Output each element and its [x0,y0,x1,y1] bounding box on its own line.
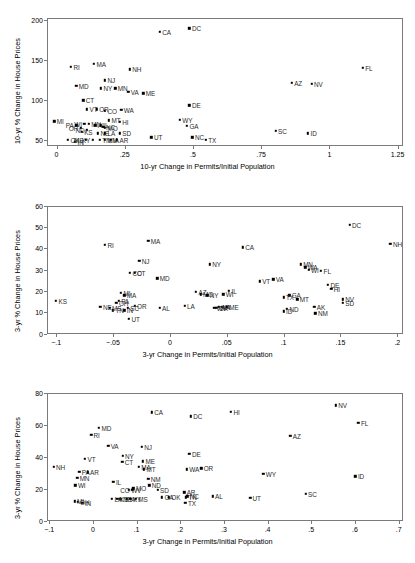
data-point-label: ID [286,308,292,315]
data-point-label: LA [115,495,123,502]
data-point [91,138,93,140]
x-tick-mark [93,521,94,524]
data-point [190,415,192,417]
data-point-label: AZ [293,432,301,439]
x-tick-mark [125,146,126,149]
data-point [184,502,186,504]
data-point [208,263,210,265]
x-tick-label: −.1 [44,526,54,533]
data-point-label: MT [146,466,155,473]
x-tick-label: .1 [134,526,140,533]
data-point [133,272,135,274]
data-point-label: ME [146,90,155,97]
data-point-label: UT [131,315,139,322]
x-tick-mark [399,521,400,524]
x-tick-mark [227,334,228,337]
data-point [112,481,114,483]
x-tick-mark [193,146,194,149]
data-point-label: DE [192,102,201,109]
data-point-label: MA [96,60,105,67]
data-point [119,121,121,123]
panel-b-y-axis-label: 3-yr % Change in House Prices [13,230,22,332]
data-point [272,278,274,280]
data-point-label: CA [154,409,163,416]
data-point [121,454,123,456]
data-point-label: CA [245,244,254,251]
data-point [107,445,109,447]
data-point-label: VA [276,276,284,283]
data-point [128,317,130,319]
data-point-label: MI [77,498,84,505]
data-point-label: MS [138,495,147,502]
data-point-label: NJ [144,443,152,450]
data-point [249,497,251,499]
y-tick-mark [44,393,47,394]
data-point-label: PA [66,122,74,129]
data-point [98,138,100,140]
data-point-label: MN [118,85,128,92]
data-point-label: VT [262,278,270,285]
y-tick-mark [44,270,47,271]
data-point-label: IN [85,499,91,506]
data-point [151,411,153,413]
x-tick-label: .05 [222,339,232,346]
y-tick-label: 40 [25,245,43,252]
y-tick-label: 50 [25,223,43,230]
panel-c-y-axis-label: 3-yr % Change in House Prices [13,417,22,519]
data-point [78,470,80,472]
data-point [97,132,99,134]
data-point [304,266,306,268]
data-point-label: WA [124,107,134,114]
data-point [179,118,181,120]
x-tick-mark [311,521,312,524]
data-point [183,305,185,307]
y-tick-label: 60 [25,422,43,429]
data-point-label: CO [120,486,129,493]
data-point [296,298,298,300]
panel-a-y-axis-label: 10-yr % Change in House Prices [13,38,22,144]
data-point [131,489,133,491]
x-tick-mark [397,334,398,337]
data-point-label: KS [59,297,67,304]
y-tick-label: 10 [25,309,43,316]
data-point [86,471,88,473]
panel-c: Panel C: 2002–2005 3-yr % Change in Hous… [0,375,415,563]
data-point [168,496,170,498]
data-point-label: LA [187,302,195,309]
data-point [142,460,144,462]
y-tick-label: 150 [25,56,43,63]
data-point [104,110,106,112]
y-tick-mark [44,60,47,61]
data-point [327,283,329,285]
data-point-label: RI [94,431,100,438]
data-point-label: SC [130,304,139,311]
x-tick-label: .75 [256,151,266,158]
data-point-label: PA [121,297,129,304]
data-point [299,263,301,265]
data-point [186,125,188,127]
data-point-label: TX [286,294,294,301]
data-point-label: DC [193,413,202,420]
data-point [289,434,291,436]
data-point [98,426,100,428]
data-point-label: MI [57,118,64,125]
data-point-label: TX [188,499,196,506]
x-tick-mark [329,146,330,149]
data-point [73,500,75,502]
data-point [129,272,131,274]
x-tick-mark [113,334,114,337]
data-point [241,246,243,248]
y-tick-mark [44,100,47,101]
y-tick-label: 80 [25,390,43,397]
data-point [320,269,322,271]
data-point [95,108,97,110]
data-point [128,68,130,70]
data-point [104,244,106,246]
data-point [104,79,106,81]
data-point [74,484,76,486]
x-tick-mark [224,521,225,524]
data-point [104,132,106,134]
data-point-label: OR [204,465,213,472]
data-point [127,90,129,92]
y-tick-label: 40 [25,454,43,461]
